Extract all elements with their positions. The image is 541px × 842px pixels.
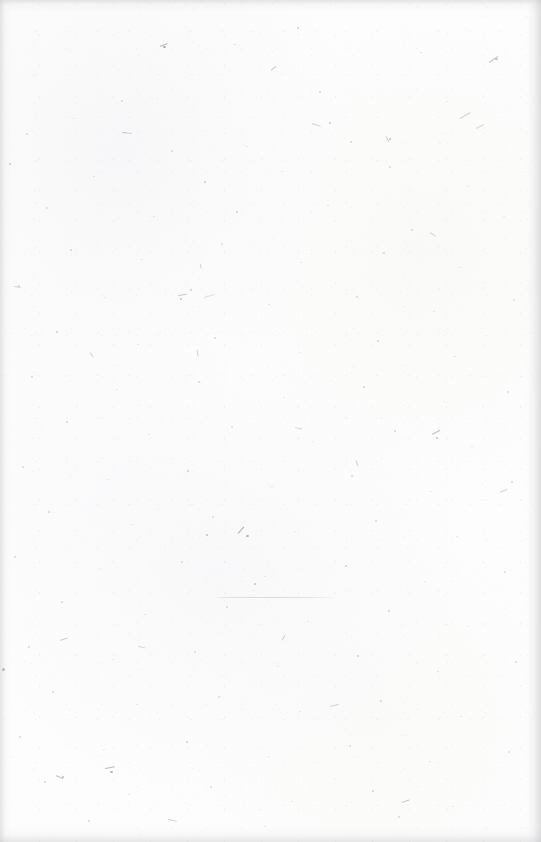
paper-background: [0, 0, 541, 842]
scanned-page: [0, 0, 541, 842]
